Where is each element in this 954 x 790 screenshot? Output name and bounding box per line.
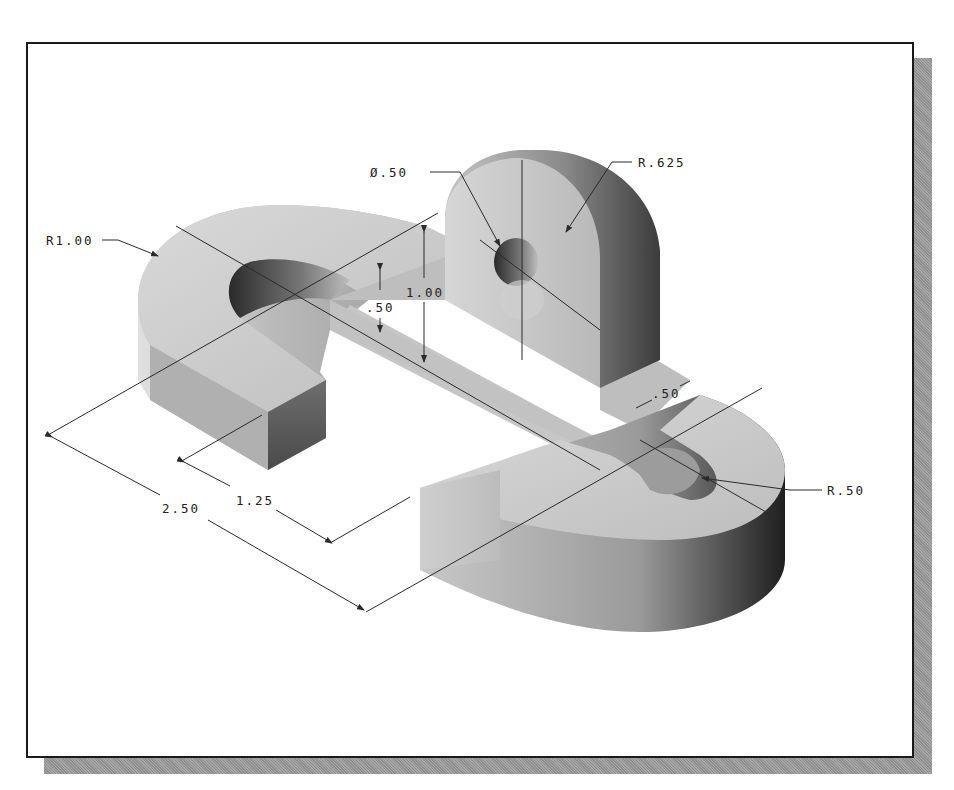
isometric-part-drawing: Ø.50 R.625 R1.00 R.50 1.00 .50 .50 1.25 … bbox=[0, 0, 954, 790]
overall-length-label: 2.50 bbox=[162, 501, 200, 516]
right-bend bbox=[420, 395, 785, 632]
boss-radius-label: R.625 bbox=[638, 155, 686, 170]
base-thickness-label: .50 bbox=[366, 300, 395, 315]
left-bend bbox=[138, 205, 470, 470]
boss-width-label: .50 bbox=[652, 386, 681, 401]
left-radius-label: R1.00 bbox=[46, 233, 94, 248]
height-total-label: 1.00 bbox=[406, 285, 444, 300]
slot-length-label: 1.25 bbox=[236, 493, 274, 508]
hole-diameter-label: Ø.50 bbox=[370, 165, 408, 180]
drawing-canvas: Ø.50 R.625 R1.00 R.50 1.00 .50 .50 1.25 … bbox=[0, 0, 954, 790]
right-radius-label: R.50 bbox=[827, 483, 865, 498]
upright-boss bbox=[445, 150, 660, 388]
